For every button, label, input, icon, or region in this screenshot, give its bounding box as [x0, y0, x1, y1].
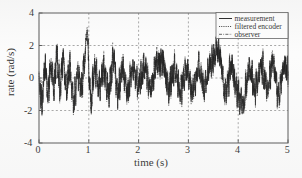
xtick-label-4: 4 [235, 144, 240, 155]
figure-canvas: measurement filtered encoder observer 0 … [0, 0, 302, 178]
xtick-label-1: 1 [86, 144, 91, 155]
legend-label-observer: observer [235, 30, 261, 39]
x-axis-label: time (s) [0, 156, 302, 168]
xtick-label-0: 0 [36, 144, 41, 155]
y-axis-label: rate (rad/s) [4, 32, 16, 112]
ytick-label-2: 2 [29, 40, 34, 51]
ytick-label-4: 4 [29, 7, 34, 18]
rate-vs-time-chart: measurement filtered encoder observer [0, 0, 302, 178]
xtick-label-5: 5 [285, 144, 290, 155]
ytick-label-minus-4: -4 [24, 137, 32, 148]
ytick-label-minus-2: -2 [24, 105, 32, 116]
xtick-label-3: 3 [185, 144, 190, 155]
xtick-label-2: 2 [135, 144, 140, 155]
ytick-label-0: 0 [29, 72, 34, 83]
chart-legend: measurement filtered encoder observer [216, 13, 288, 40]
